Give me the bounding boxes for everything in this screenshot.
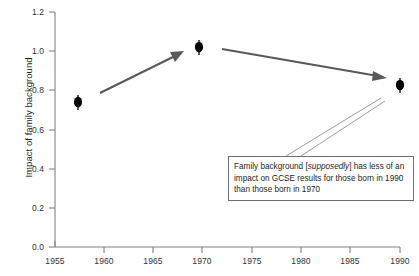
marker-1990 bbox=[396, 80, 404, 90]
trend-arrow-down-head bbox=[372, 71, 387, 81]
trend-arrow-up bbox=[100, 51, 184, 93]
y-tick-label-1-2: 1.2 bbox=[18, 7, 44, 17]
y-axis-title: Impact of family background bbox=[23, 28, 34, 208]
y-tick-marks bbox=[49, 12, 55, 247]
callout-leader-lines bbox=[286, 98, 385, 156]
marker-1958 bbox=[74, 97, 82, 107]
data-point-1958 bbox=[74, 95, 82, 110]
x-tick-label-1980: 1980 bbox=[284, 256, 318, 266]
x-tick-label-1960: 1960 bbox=[87, 256, 121, 266]
data-point-1990 bbox=[396, 78, 404, 93]
y-tick-label-0-0: 0.0 bbox=[18, 242, 44, 252]
x-tick-label-1955: 1955 bbox=[38, 256, 72, 266]
chart-container: 1.2 1.0 0.8 0.6 0.4 0.2 0.0 1955 1960 19… bbox=[0, 0, 419, 276]
marker-1970 bbox=[195, 42, 203, 52]
x-tick-label-1990: 1990 bbox=[383, 256, 417, 266]
trend-arrow-down bbox=[222, 49, 387, 81]
x-tick-label-1975: 1975 bbox=[235, 256, 269, 266]
trend-arrow-up-shaft bbox=[100, 55, 177, 93]
data-point-1970 bbox=[195, 40, 203, 55]
annotation-callout: Family background [supposedly] has less … bbox=[228, 156, 414, 201]
annotation-text-emphasis: supposedly bbox=[308, 162, 349, 171]
x-tick-label-1985: 1985 bbox=[333, 256, 367, 266]
annotation-text-lead: Family background [ bbox=[234, 162, 308, 171]
trend-arrow-down-shaft bbox=[222, 49, 378, 76]
x-tick-label-1965: 1965 bbox=[136, 256, 170, 266]
chart-canvas bbox=[0, 0, 419, 276]
x-tick-label-1970: 1970 bbox=[185, 256, 219, 266]
